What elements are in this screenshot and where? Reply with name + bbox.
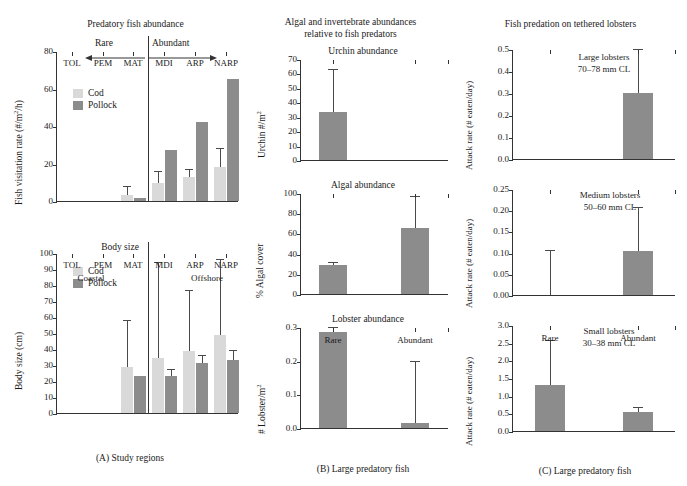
caption-b: (B) Large predatory fish [273, 464, 453, 474]
plot-area-small-lobsters: 0.0 0.5 1.0 1.5 2.0 2.5 3.0 Small lobste… [512, 326, 675, 432]
bar-cod-mdi [152, 183, 164, 201]
panel-fish-visitation: Fish visitation rate (#/m2/h) 0 20 40 60… [0, 30, 245, 235]
group-label-offshore: Offshore [167, 273, 247, 283]
bar-algal-abundant [401, 228, 429, 294]
bar-pollock-narp-size [227, 360, 239, 413]
bar-pollock-arp-size [196, 363, 208, 413]
bar-large-abundant [623, 93, 653, 159]
note-subtitle-medium: 50–60 mm CL [584, 202, 637, 212]
bar-cod-arp-size [183, 351, 195, 413]
plot-area-algal: 0 20 40 60 80 100 [300, 194, 448, 295]
xlabel-abundant-small: Abundant [608, 333, 668, 343]
column-b-header-line2: relative to fish predators [248, 28, 453, 40]
legend-swatch-cod [73, 89, 83, 98]
title-body-size: Body size [60, 242, 180, 252]
note-medium-lobsters: Medium lobsters 50–60 mm CL [551, 190, 669, 213]
caption-a: (A) Study regions [40, 453, 220, 463]
bar-pollock-mat [134, 198, 146, 201]
axis-label-attack-medium: Attack rate (# eaten/day) [464, 219, 474, 308]
bar-cod-narp-size [214, 335, 226, 413]
panel-small-lobsters: Attack rate (# eaten/day) 0.0 0.5 1.0 1.… [455, 314, 687, 486]
panel-large-lobsters: Attack rate (# eaten/day) 0.0 0.1 0.2 0.… [455, 36, 687, 176]
figure-root: Predatory fish abundance Fish visitation… [0, 0, 687, 486]
plot-area-fish-visitation: 0 20 40 60 80 Cod Pollock [56, 52, 238, 202]
title-urchin: Urchin abundance [293, 46, 433, 56]
bar-cod-mat [121, 195, 133, 201]
column-c-header: Fish predation on tethered lobsters [458, 18, 683, 30]
legend-fish: Cod Pollock [73, 88, 117, 110]
axis-label-fish-visitation: Fish visitation rate (#/m2/h) [12, 100, 24, 205]
axis-label-attack-large: Attack rate (# eaten/day) [464, 81, 474, 170]
bar-pollock-arp [196, 122, 208, 201]
bar-cod-mdi-size [152, 358, 164, 413]
group-label-coastal: Coastal [51, 273, 131, 283]
legend-label-pollock: Pollock [88, 100, 117, 110]
annotation-rare: Rare [95, 38, 113, 48]
bar-pollock-narp [227, 79, 239, 201]
rare-abundant-arrows [85, 51, 245, 65]
note-title-large: Large lobsters [578, 52, 629, 62]
bar-lobster-abundant [401, 423, 429, 428]
bar-lobster-rare [319, 332, 347, 428]
axis-label-attack-small: Attack rate (# eaten/day) [464, 357, 474, 446]
caption-c: (C) Large predatory fish [495, 466, 675, 476]
annotation-abundant: Abundant [152, 38, 189, 48]
bar-small-rare [535, 385, 565, 431]
axis-label-algal: % Algal cover [255, 244, 265, 298]
xlabel-abundant-lobster: Abundant [385, 335, 445, 345]
xlabel-narp-2: NARP [206, 260, 246, 270]
legend-label-cod: Cod [88, 88, 104, 98]
xlabel-rare-small: Rare [525, 333, 575, 343]
plot-area-medium-lobsters: 0.00 0.05 0.10 0.15 0.20 0.25 Medium lob… [512, 190, 675, 296]
plot-area-urchin: 0 10 20 30 40 50 60 70 [300, 60, 448, 161]
panel-lobster-abundance: Lobster abundance # Lobster/m2 0.0 0.1 0… [248, 314, 463, 486]
bar-urchin-rare [319, 112, 347, 160]
bar-pollock-mdi [165, 150, 177, 201]
title-lobster-abundance: Lobster abundance [293, 314, 443, 324]
plot-area-body-size: 0 10 20 30 40 50 60 70 80 90 100 Cod Pol… [56, 254, 238, 414]
column-a-header: Predatory fish abundance [28, 18, 243, 30]
note-title-medium: Medium lobsters [580, 190, 641, 200]
note-subtitle-large: 70–78 mm CL [578, 64, 631, 74]
panel-body-size: Body size Body size (cm) 0 10 20 30 40 5… [0, 240, 245, 486]
bar-pollock-mdi-size [165, 376, 177, 413]
xlabel-rare-lobster: Rare [308, 335, 358, 345]
panel-medium-lobsters: Attack rate (# eaten/day) 0.00 0.05 0.10… [455, 178, 687, 313]
bar-cod-narp [214, 167, 226, 201]
legend-swatch-pollock [73, 101, 83, 110]
bar-algal-rare [319, 265, 347, 294]
bar-cod-arp [183, 177, 195, 201]
bar-cod-mat-size [121, 367, 133, 413]
plot-area-large-lobsters: 0.0 0.1 0.2 0.3 0.4 0.5 Large lobsters 7… [512, 50, 675, 160]
title-algal: Algal abundance [293, 180, 433, 190]
axis-label-urchin: Urchin #/m2 [255, 111, 267, 158]
bar-small-abundant [623, 412, 653, 431]
bar-medium-abundant [623, 251, 653, 295]
plot-area-lobster: 0.0 0.1 0.2 0.3 Rare Abundant [300, 328, 448, 429]
bar-pollock-mat-size [134, 376, 146, 413]
panel-algal-abundance: Algal abundance % Algal cover 0 20 40 60… [248, 180, 453, 310]
panel-urchin-abundance: Urchin abundance Urchin #/m2 0 10 20 30 … [248, 46, 453, 176]
column-b-header-line1: Algal and invertebrate abundances [248, 16, 453, 28]
note-large-lobsters: Large lobsters 70–78 mm CL [549, 52, 659, 75]
axis-label-lobster: # Lobster/m2 [255, 385, 267, 434]
axis-label-body-size: Body size (cm) [14, 332, 24, 390]
